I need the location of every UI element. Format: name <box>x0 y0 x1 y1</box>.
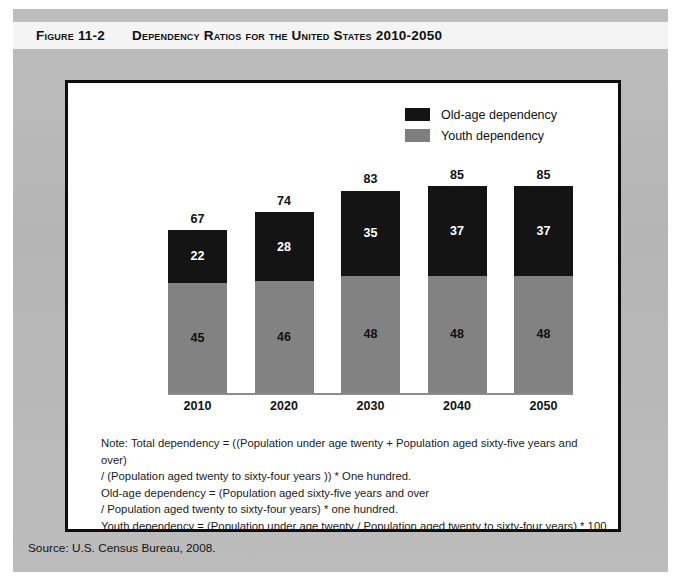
bar-group-2030: 83 35 48 <box>341 191 400 394</box>
bar-total-2030: 83 <box>341 172 400 186</box>
bar-segment-label-youth-2050: 48 <box>537 327 551 341</box>
note-line: Old-age dependency = (Population aged si… <box>101 485 601 502</box>
figure-notes: Note: Total dependency = ((Population un… <box>101 435 601 534</box>
bar-segment-label-youth-2010: 45 <box>191 331 205 345</box>
figure-number: Figure 11-2 <box>36 28 105 43</box>
bar-segment-label-old-age-2040: 37 <box>450 224 464 238</box>
bar-segment-old-age-2010: 22 <box>168 230 227 284</box>
figure-title: Dependency Ratios for the United States … <box>132 28 442 43</box>
x-axis-label-2050: 2050 <box>514 399 573 413</box>
bar-segment-youth-2050: 48 <box>514 276 573 393</box>
bar-total-2040: 85 <box>428 168 487 182</box>
bar-group-2050: 85 37 48 <box>514 186 573 393</box>
bar-segment-youth-2040: 48 <box>428 276 487 393</box>
bar-group-2010: 67 22 45 <box>168 230 227 393</box>
bar-segment-youth-2030: 48 <box>341 276 400 393</box>
bar-segment-label-old-age-2010: 22 <box>191 249 205 263</box>
x-axis-label-2030: 2030 <box>341 399 400 413</box>
note-line: Youth dependency = (Population under age… <box>101 518 601 535</box>
figure-root: Figure 11-2 Dependency Ratios for the Un… <box>0 0 683 585</box>
note-line: Note: Total dependency = ((Population un… <box>101 435 601 452</box>
bar-segment-label-old-age-2050: 37 <box>537 224 551 238</box>
bar-segment-old-age-2040: 37 <box>428 186 487 276</box>
x-axis-label-2010: 2010 <box>168 399 227 413</box>
bar-segment-label-old-age-2020: 28 <box>277 240 291 254</box>
x-axis-line <box>168 393 573 395</box>
x-axis-label-2040: 2040 <box>428 399 487 413</box>
bar-segment-label-old-age-2030: 35 <box>364 226 378 240</box>
bar-total-2050: 85 <box>514 168 573 182</box>
bar-segment-old-age-2020: 28 <box>255 212 314 280</box>
bar-segment-old-age-2030: 35 <box>341 191 400 276</box>
bar-segment-old-age-2050: 37 <box>514 186 573 276</box>
bar-group-2040: 85 37 48 <box>428 186 487 393</box>
plot-area: 67 22 45 74 28 46 <box>68 83 618 413</box>
bars-row: 67 22 45 74 28 46 <box>168 143 573 393</box>
bar-segment-youth-2010: 45 <box>168 283 227 393</box>
chart-panel: Old-age dependency Youth dependency 67 2… <box>65 80 621 532</box>
x-axis-label-2020: 2020 <box>255 399 314 413</box>
bar-segment-label-youth-2030: 48 <box>364 327 378 341</box>
figure-header-band: Figure 11-2 Dependency Ratios for the Un… <box>13 22 668 49</box>
bar-group-2020: 74 28 46 <box>255 212 314 393</box>
note-line: / Population aged twenty to sixty-four y… <box>101 501 601 518</box>
bar-total-2020: 74 <box>255 194 314 208</box>
bar-segment-youth-2020: 46 <box>255 281 314 393</box>
bar-total-2010: 67 <box>168 212 227 226</box>
x-axis-labels: 2010 2020 2030 2040 2050 <box>168 399 573 413</box>
note-line: over) <box>101 452 601 469</box>
note-line: / (Population aged twenty to sixty-four … <box>101 468 601 485</box>
bar-segment-label-youth-2040: 48 <box>450 327 464 341</box>
figure-source: Source: U.S. Census Bureau, 2008. <box>28 541 216 555</box>
bar-segment-label-youth-2020: 46 <box>277 330 291 344</box>
